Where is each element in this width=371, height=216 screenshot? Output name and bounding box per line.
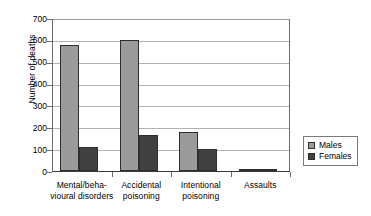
- x-tick-mark: [171, 172, 172, 177]
- y-tick-label: 700: [7, 15, 47, 24]
- y-tick-label: 300: [7, 102, 47, 111]
- figure-caption: [0, 209, 371, 216]
- chart-legend: MalesFemales: [303, 136, 358, 166]
- bar-group: [113, 18, 173, 171]
- bar-females: [79, 147, 98, 171]
- bar-males: [60, 45, 79, 171]
- legend-swatch-icon: [308, 153, 315, 160]
- bar-males: [239, 169, 258, 171]
- legend-swatch-icon: [308, 142, 315, 149]
- x-tick-mark: [290, 172, 291, 177]
- y-tick-label: 400: [7, 80, 47, 89]
- x-category-label-line: Assaults: [215, 180, 305, 191]
- x-category-label: Assaults: [215, 180, 305, 191]
- bar-males: [179, 132, 198, 171]
- y-tick-label: 200: [7, 124, 47, 133]
- bar-females: [258, 169, 277, 171]
- x-tick-mark: [231, 172, 232, 177]
- y-tick-label: 500: [7, 58, 47, 67]
- legend-label: Males: [319, 141, 342, 150]
- bar-chart-figure: Number of deaths 0100200300400500600700 …: [0, 0, 371, 216]
- bar-females: [198, 149, 217, 171]
- plot-area: [52, 19, 290, 172]
- bar-group: [232, 18, 292, 171]
- y-tick-mark: [47, 172, 52, 173]
- bar-group: [172, 18, 232, 171]
- bar-males: [120, 40, 139, 171]
- legend-item-males[interactable]: Males: [308, 140, 352, 151]
- bar-females: [139, 135, 158, 171]
- bar-group: [53, 18, 113, 171]
- legend-item-females[interactable]: Females: [308, 151, 352, 162]
- y-axis-title: Number of deaths: [27, 4, 37, 134]
- legend-label: Females: [319, 152, 352, 161]
- y-tick-label: 600: [7, 36, 47, 45]
- x-category-label-line: poisoning: [156, 191, 246, 202]
- y-tick-label: 100: [7, 146, 47, 155]
- x-tick-mark: [112, 172, 113, 177]
- y-tick-label: 0: [7, 168, 47, 177]
